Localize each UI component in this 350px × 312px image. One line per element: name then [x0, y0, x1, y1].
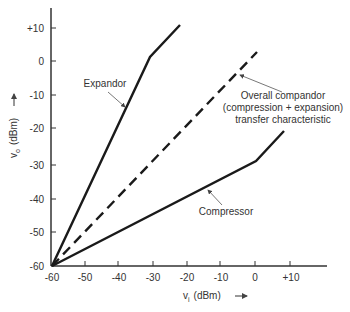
compandor-chart: +10 0 -10 -20 -30 -40 -50 -60 -60 -50 -4…: [0, 0, 350, 312]
svg-text:-30: -30: [30, 160, 45, 171]
x-axis-label: vi(dBm): [183, 290, 247, 303]
svg-text:-10: -10: [214, 272, 229, 283]
svg-text:-50: -50: [78, 272, 93, 283]
compressor-line: [52, 131, 284, 266]
svg-text:Overall compandor: Overall compandor: [241, 90, 326, 101]
svg-text:Expandor: Expandor: [84, 78, 127, 89]
y-tick-labels: +10 0 -10 -20 -30 -40 -50 -60: [27, 23, 44, 272]
svg-text:-60: -60: [45, 272, 60, 283]
y-axis-label: vo(dBm): [8, 94, 21, 158]
svg-text:-40: -40: [112, 272, 127, 283]
svg-text:transfer characteristic: transfer characteristic: [235, 114, 331, 125]
svg-text:-20: -20: [180, 272, 195, 283]
svg-text:-60: -60: [30, 261, 45, 272]
svg-text:vi(dBm): vi(dBm): [183, 290, 221, 303]
svg-text:0: 0: [38, 56, 44, 67]
x-tick-labels: -60 -50 -40 -30 -20 -10 0 +10: [45, 272, 300, 283]
svg-text:vo(dBm): vo(dBm): [8, 118, 21, 158]
svg-text:-50: -50: [30, 227, 45, 238]
overall-compandor-annotation: Overall compandor (compression + expansi…: [223, 75, 343, 125]
svg-text:-30: -30: [146, 272, 161, 283]
expandor-annotation: Expandor: [84, 78, 127, 107]
svg-text:Compressor: Compressor: [199, 206, 254, 217]
svg-text:-10: -10: [30, 90, 45, 101]
svg-text:0: 0: [252, 272, 258, 283]
expandor-line: [52, 25, 180, 266]
svg-text:+10: +10: [27, 23, 44, 34]
svg-text:+10: +10: [283, 272, 300, 283]
svg-text:-40: -40: [30, 194, 45, 205]
svg-text:(compression + expansion): (compression + expansion): [223, 102, 343, 113]
compressor-annotation: Compressor: [199, 190, 254, 217]
svg-text:-20: -20: [30, 123, 45, 134]
